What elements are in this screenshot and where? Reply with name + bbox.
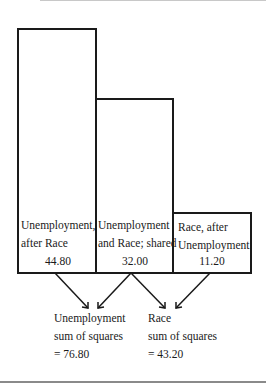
result-unemployment-line3: = 76.80 [54, 345, 89, 363]
bottom-rule [0, 381, 266, 383]
result-race-line2: sum of squares [148, 327, 217, 345]
arrows [0, 0, 266, 384]
result-unemployment-line2: sum of squares [54, 327, 123, 345]
result-unemployment-line1: Unemployment [54, 309, 126, 327]
result-race-line1: Race [148, 309, 171, 327]
result-race-line3: = 43.20 [148, 345, 183, 363]
